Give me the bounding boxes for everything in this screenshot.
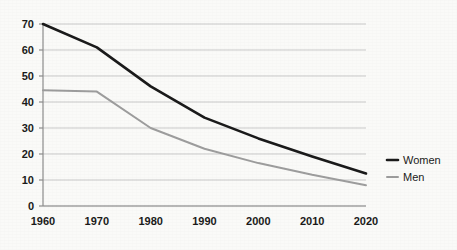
series-line-men: [43, 90, 366, 185]
x-axis-tick-label: 2000: [246, 215, 270, 227]
y-axis-tick-label: 30: [22, 122, 34, 134]
x-axis-tick-label: 1990: [192, 215, 216, 227]
y-axis-tick-label: 0: [28, 200, 34, 212]
chart-legend: WomenMen: [387, 154, 441, 183]
x-axis-tick-label: 2020: [354, 215, 378, 227]
chart-plot-area: 010203040506070 196019701980199020002010…: [0, 0, 457, 250]
legend-label-women[interactable]: Women: [403, 154, 441, 166]
grid-lines: [43, 24, 366, 206]
x-axis-tick-label: 1980: [138, 215, 162, 227]
x-axis-tick-label: 1970: [85, 215, 109, 227]
y-axis-tick-label: 10: [22, 174, 34, 186]
legend-label-men[interactable]: Men: [403, 171, 424, 183]
x-axis-tick-labels: 1960197019801990200020102020: [31, 215, 378, 227]
y-axis-tick-label: 20: [22, 148, 34, 160]
y-axis-tick-labels: 010203040506070: [22, 18, 34, 212]
x-axis-tick-label: 2010: [300, 215, 324, 227]
y-axis-tick-label: 50: [22, 70, 34, 82]
y-axis-tick-label: 70: [22, 18, 34, 30]
data-series-lines: [43, 24, 366, 185]
line-chart: 010203040506070 196019701980199020002010…: [0, 0, 457, 250]
series-line-women: [43, 24, 366, 174]
y-axis-tick-label: 60: [22, 44, 34, 56]
x-axis-tick-label: 1960: [31, 215, 55, 227]
y-axis-tick-label: 40: [22, 96, 34, 108]
